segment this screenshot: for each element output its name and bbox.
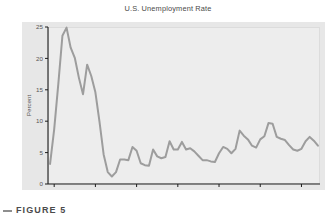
x-axis-tick-label: 1980 [253,189,267,191]
y-axis-tick-label: 10 [36,117,43,124]
x-axis-tick-label: 1960 [171,189,185,191]
chart-title: U.S. Unemployment Rate [0,4,336,13]
figure-caption-row: FIGURE 5 [3,205,66,216]
x-axis-tick-label: 1930 [47,189,61,191]
figure-root: U.S. Unemployment Rate 0510152025Percent… [0,0,336,216]
y-axis-tick-label: 20 [36,55,43,62]
x-axis-tick-label: 1950 [130,189,144,191]
dash-marker-icon [3,210,12,212]
y-axis-title: Percent [25,95,32,117]
figure-panel: 0510152025Percent19301940195019601970198… [22,22,325,190]
series-line-unemployment-rate [50,28,318,177]
y-axis-tick-label: 15 [36,86,43,93]
x-axis-tick-label: 1990 [295,189,309,191]
y-axis-tick-label: 25 [36,23,43,30]
figure-caption: FIGURE 5 [16,205,66,215]
x-axis-tick-label: 1940 [89,189,103,191]
y-axis-tick-label: 0 [40,180,44,187]
unemployment-line-chart: 0510152025Percent19301940195019601970198… [22,22,325,190]
y-axis-tick-label: 5 [40,149,44,156]
x-axis-tick-label: 1970 [212,189,226,191]
